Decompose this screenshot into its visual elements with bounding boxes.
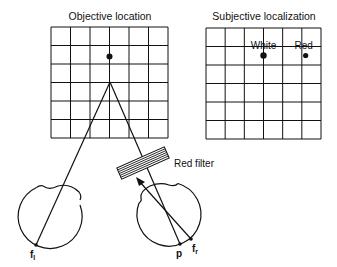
- arrow-head-icon: [136, 177, 145, 186]
- red-label: Red: [294, 40, 312, 51]
- filter-hatch-line: [119, 152, 167, 173]
- left-eye-cornea: [37, 185, 81, 200]
- arrow-shaft: [139, 181, 191, 239]
- right-point-p: [178, 242, 182, 246]
- diagram-canvas: Objective location Subjective localizati…: [0, 0, 337, 267]
- filter-hatching: [118, 149, 169, 177]
- right-fovea-label: fr: [192, 243, 198, 255]
- left-fovea-label: fl: [30, 249, 35, 261]
- red-dot: [303, 53, 308, 58]
- right-eye: p fr: [137, 184, 201, 260]
- subjective-title: Subjective localization: [212, 10, 315, 22]
- left-eye: fl: [18, 185, 82, 261]
- objective-title: Objective location: [69, 10, 152, 22]
- red-light-arrow: [136, 177, 191, 239]
- left-eye-sight-line: [36, 82, 110, 245]
- red-filter: [117, 147, 169, 179]
- red-filter-label: Red filter: [174, 158, 215, 169]
- white-label: White: [251, 40, 277, 51]
- left-eye-globe: [18, 188, 82, 249]
- right-point-p-label: p: [176, 248, 182, 259]
- objective-target-dot: [107, 54, 113, 60]
- left-fovea-point: [34, 243, 38, 247]
- white-dot: [260, 52, 266, 58]
